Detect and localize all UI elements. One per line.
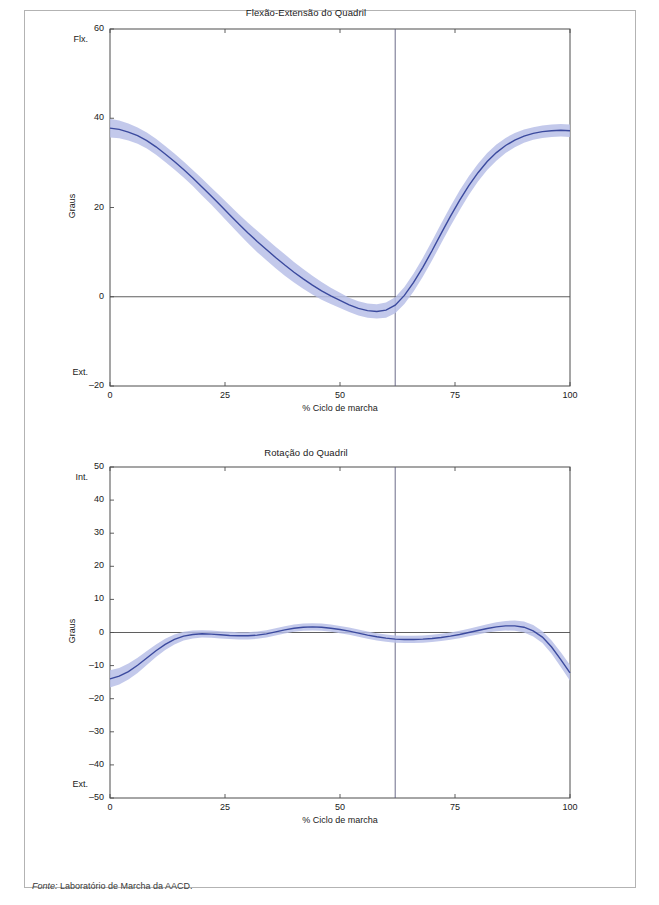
axis-end-label-rotation-top: Int. — [52, 472, 88, 482]
y-tick-label: 40 — [68, 494, 104, 504]
y-tick-label: 30 — [68, 527, 104, 537]
x-tick-label: 0 — [90, 802, 130, 812]
y-tick-label: 40 — [68, 112, 104, 122]
y-axis-label-rotacao: Graus — [67, 591, 77, 671]
source-prefix: Fonte: — [32, 881, 58, 891]
y-tick-label: –40 — [68, 759, 104, 769]
x-tick-label: 25 — [205, 802, 245, 812]
y-tick-label: –50 — [68, 792, 104, 802]
x-tick-label: 50 — [320, 390, 360, 400]
deviation-band — [110, 621, 570, 688]
y-tick-label: 50 — [68, 461, 104, 471]
axis-end-label-flexion-bottom: Ext. — [52, 367, 88, 377]
plot-area-flexao — [0, 1, 612, 441]
x-tick-label: 100 — [550, 390, 590, 400]
figure-container: Flexão-Extensão do Quadril –200204060025… — [0, 0, 659, 905]
x-tick-label: 50 — [320, 802, 360, 812]
y-axis-label-flexao: Graus — [67, 166, 77, 246]
x-axis-label-rotacao: % Ciclo de marcha — [110, 815, 570, 825]
source-text: Laboratório de Marcha da AACD. — [58, 881, 193, 891]
y-tick-label: –20 — [68, 380, 104, 390]
y-tick-label: –20 — [68, 693, 104, 703]
figure-source-note: Fonte: Laboratório de Marcha da AACD. — [32, 881, 193, 891]
chart-rotacao-quadril: Rotação do Quadril –50–40–30–20–10010203… — [0, 441, 612, 845]
x-tick-label: 0 — [90, 390, 130, 400]
x-axis-label-flexao: % Ciclo de marcha — [110, 403, 570, 413]
axis-end-label-flexion-top: Flx. — [52, 34, 88, 44]
x-tick-label: 100 — [550, 802, 590, 812]
x-tick-label: 75 — [435, 390, 475, 400]
chart-flexao-extensao-quadril: Flexão-Extensão do Quadril –200204060025… — [0, 1, 612, 441]
y-tick-label: –30 — [68, 726, 104, 736]
y-tick-label: 20 — [68, 560, 104, 570]
x-tick-label: 75 — [435, 802, 475, 812]
y-tick-label: 0 — [68, 291, 104, 301]
y-tick-label: 60 — [68, 23, 104, 33]
axis-end-label-rotation-bottom: Ext. — [52, 779, 88, 789]
x-tick-label: 25 — [205, 390, 245, 400]
